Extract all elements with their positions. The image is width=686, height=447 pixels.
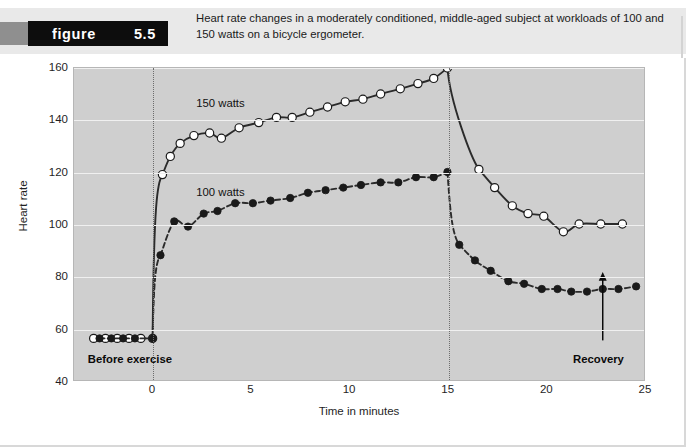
before-exercise-label: Before exercise	[88, 353, 172, 365]
data-point	[108, 335, 115, 342]
data-point	[597, 220, 605, 228]
data-point	[520, 280, 527, 287]
data-point	[456, 241, 463, 248]
data-point	[304, 189, 311, 196]
gridline-y-120	[74, 173, 644, 174]
series-100-watts	[96, 168, 640, 342]
plot-area: 150 watts100 wattsBefore exerciseRecover…	[73, 67, 645, 381]
data-point	[323, 103, 331, 111]
chart-svg	[74, 68, 644, 380]
recovery-label: Recovery	[573, 353, 624, 365]
data-point	[491, 184, 499, 192]
y-tick-label-120: 120	[28, 166, 68, 178]
data-point	[357, 181, 364, 188]
series-150-watts	[90, 67, 627, 342]
data-point	[341, 98, 349, 106]
x-tick-label-0: 0	[132, 383, 172, 395]
y-tick-label-40: 40	[28, 375, 68, 387]
data-point	[559, 228, 567, 236]
figure-caption: Heart rate changes in a moderately condi…	[196, 11, 666, 42]
gridline-y-160	[74, 68, 644, 69]
x-tick-label-5: 5	[231, 383, 271, 395]
data-point	[200, 210, 207, 217]
data-point	[430, 74, 438, 82]
data-point	[287, 194, 294, 201]
data-point	[487, 267, 494, 274]
recovery-segment	[459, 245, 636, 292]
data-point	[568, 288, 575, 295]
data-point	[171, 218, 178, 225]
gridline-y-60	[74, 330, 644, 331]
data-point	[190, 132, 198, 140]
data-point	[235, 124, 243, 132]
data-point	[306, 108, 314, 116]
x-axis-title: Time in minutes	[73, 405, 645, 417]
data-point	[157, 252, 164, 259]
data-point	[540, 212, 548, 220]
data-point	[412, 174, 419, 181]
y-tick-label-140: 140	[28, 113, 68, 125]
data-point	[395, 179, 402, 186]
data-point	[554, 285, 561, 292]
data-point	[322, 187, 329, 194]
data-point	[538, 285, 545, 292]
recovery-drop-segment	[447, 68, 478, 169]
series-label-100-watts: 100 watts	[196, 186, 244, 198]
x-axis-ticks: 0510152025	[73, 383, 645, 403]
figure-page: figure 5.5 Heart rate changes in a moder…	[0, 0, 686, 447]
data-point	[508, 202, 516, 210]
y-tick-label-60: 60	[28, 323, 68, 335]
x-tick-label-10: 10	[329, 383, 369, 395]
data-point	[430, 174, 437, 181]
data-point	[377, 179, 384, 186]
data-point	[131, 335, 138, 342]
data-point	[96, 335, 103, 342]
gridline-y-80	[74, 277, 644, 278]
data-point	[359, 95, 367, 103]
y-tick-label-80: 80	[28, 270, 68, 282]
data-point	[414, 80, 422, 88]
series-label-150-watts: 150 watts	[196, 97, 244, 109]
data-point	[231, 200, 238, 207]
phase-marker-15min	[449, 68, 450, 380]
data-point	[524, 210, 532, 218]
data-point	[396, 85, 404, 93]
data-point	[471, 257, 478, 264]
data-point	[214, 207, 221, 214]
phase-marker-0min	[153, 68, 154, 380]
data-point	[377, 90, 385, 98]
data-point	[267, 197, 274, 204]
data-point	[119, 335, 126, 342]
y-axis-title: Heart rate	[17, 180, 29, 231]
data-point	[249, 200, 256, 207]
figure-word-label: figure	[52, 26, 96, 42]
y-tick-label-160: 160	[28, 61, 68, 73]
data-point	[166, 152, 174, 160]
data-point	[618, 220, 626, 228]
y-tick-label-100: 100	[28, 218, 68, 230]
data-point	[340, 184, 347, 191]
x-tick-label-20: 20	[526, 383, 566, 395]
x-tick-label-25: 25	[625, 383, 665, 395]
chart-container: 406080100120140160 150 watts100 wattsBef…	[0, 58, 686, 447]
data-point	[575, 220, 583, 228]
data-point	[583, 288, 590, 295]
data-point	[505, 278, 512, 285]
gridline-y-100	[74, 225, 644, 226]
figure-number-box: figure 5.5	[28, 21, 168, 46]
y-axis-ticks: 406080100120140160	[22, 67, 68, 381]
data-point	[206, 129, 214, 137]
data-point	[217, 134, 225, 142]
data-point	[176, 139, 184, 147]
figure-number-label: 5.5	[134, 26, 156, 42]
gridline-y-140	[74, 120, 644, 121]
data-point	[632, 283, 639, 290]
data-point	[615, 285, 622, 292]
x-tick-label-15: 15	[428, 383, 468, 395]
